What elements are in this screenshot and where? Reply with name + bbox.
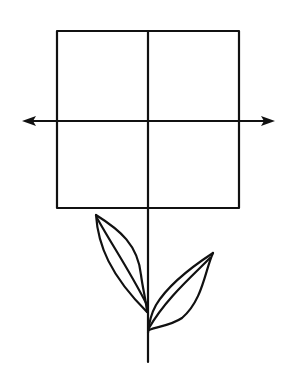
right-leaf xyxy=(148,253,213,333)
left-leaf xyxy=(96,215,147,312)
diagram-canvas xyxy=(0,0,287,383)
